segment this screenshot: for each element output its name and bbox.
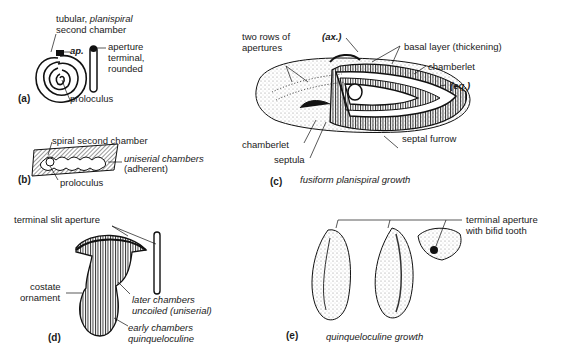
label-chamberlet-left: chamberlet [242, 140, 289, 151]
label-planispiral: planispiral [90, 13, 133, 24]
label-early-chambers: early chambers [128, 323, 193, 334]
caption-c: fusiform planispiral growth [300, 175, 410, 186]
panel-e-quinqueloculine-drawing [312, 220, 462, 320]
label-bifid-tooth: with bifid tooth [466, 226, 527, 237]
label-septal-furrow: septal furrow [402, 134, 456, 145]
label-adherent: (adherent) [124, 164, 168, 175]
label-two-rows-of: two rows of [242, 32, 290, 43]
label-quinqueloculine: quinqueloculine [128, 334, 194, 345]
panel-d-costate-drawing [66, 226, 160, 336]
panel-label-d: (d) [48, 332, 61, 343]
label-septula: septula [274, 155, 305, 166]
label-basal-layer: basal layer (thickening) [404, 42, 502, 53]
label-terminal: terminal, [108, 53, 144, 64]
label-proloculus-a: proloculus [70, 94, 113, 105]
label-eq: (eq.) [450, 81, 470, 92]
label-aperture: aperture [108, 42, 143, 53]
label-later-chambers: later chambers [132, 295, 195, 306]
panel-b-uniserial-drawing [32, 142, 122, 180]
caption-e: quinqueloculine growth [326, 332, 423, 343]
label-ax: (ax.) [322, 32, 342, 43]
label-rounded: rounded [108, 64, 143, 75]
label-ap: ap. [70, 46, 84, 57]
label-second-chamber: second chamber [56, 25, 126, 36]
label-proloculus-b: proloculus [60, 178, 103, 189]
label-apertures: apertures [242, 43, 282, 54]
panel-label-e: (e) [286, 330, 298, 341]
label-tubular-planispiral: tubular, planispiral [56, 14, 133, 25]
label-chamberlet-right: chamberlet [428, 62, 475, 73]
label-terminal-aperture: terminal aperture [466, 215, 538, 226]
panel-label-b: (b) [18, 174, 31, 185]
panel-label-a: (a) [18, 93, 30, 104]
label-uncoiled: uncoiled (uniserial) [132, 306, 212, 317]
panel-label-c: (c) [270, 176, 282, 187]
label-terminal-slit-aperture: terminal slit aperture [14, 215, 100, 226]
label-ornament: ornament [20, 293, 60, 304]
label-costate: costate [30, 282, 61, 293]
label-spiral-second-chamber: spiral second chamber [52, 136, 148, 147]
label-tubular: tubular, [56, 13, 90, 24]
